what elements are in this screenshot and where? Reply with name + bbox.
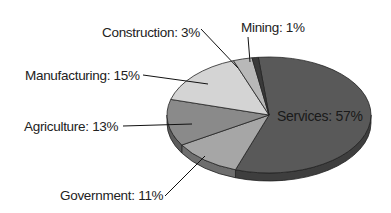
label-government: Government: 11% (60, 188, 164, 203)
label-construction: Construction: 3% (102, 25, 200, 40)
leader-line-government (165, 156, 205, 196)
label-agriculture: Agriculture: 13% (24, 119, 119, 134)
label-manufacturing: Manufacturing: 15% (25, 68, 140, 83)
leader-line-construction (201, 29, 238, 68)
pie-chart: Construction: 3% Mining: 1% Manufacturin… (0, 0, 391, 213)
label-services: Services: 57% (277, 108, 363, 124)
label-mining: Mining: 1% (241, 20, 305, 35)
